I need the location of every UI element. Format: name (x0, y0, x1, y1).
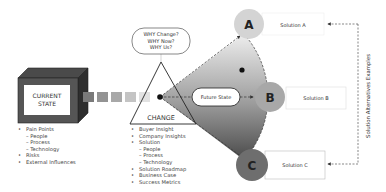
solution-c: Solution C C (236, 149, 325, 181)
square-1 (83, 92, 94, 102)
cube-top (18, 68, 88, 78)
change-subitem: People (131, 146, 186, 153)
square-5 (139, 92, 150, 102)
current-item: Risks (18, 152, 76, 159)
square-4 (125, 92, 136, 102)
solution-b: Solution B B (255, 82, 346, 112)
current-subitem: Process (18, 139, 76, 146)
change-item: Company Insights (131, 133, 186, 140)
solution-a: Solution A A (234, 9, 324, 39)
current-state-list: Pain Points People Process Technology Ri… (18, 126, 76, 166)
solution-b-letter: B (265, 91, 274, 105)
current-state-cube: CURRENT STATE (18, 68, 88, 123)
future-state-label: Future State (201, 94, 232, 100)
change-item: Success Metrics (131, 179, 186, 186)
change-list: Buyer Insight Company Insights Solution … (131, 126, 186, 185)
solution-b-label: Solution B (303, 95, 329, 101)
current-state-label-1: CURRENT (33, 92, 62, 99)
side-label: Solution Alternatives Examples (365, 54, 372, 138)
current-item: Pain Points (18, 126, 76, 133)
current-state-label-2: STATE (38, 100, 56, 107)
current-item: External Influences (18, 159, 76, 166)
change-item: Business Case (131, 172, 186, 179)
change-subitem: Technology (131, 159, 186, 166)
change-subitem: Process (131, 152, 186, 159)
change-item: Solution Roadmap (131, 166, 186, 173)
change-item: Buyer Insight (131, 126, 186, 133)
change-label: CHANGE (147, 114, 174, 122)
current-subitem: Technology (18, 146, 76, 153)
square-2 (97, 92, 108, 102)
solution-c-label: Solution C (282, 162, 308, 168)
solution-a-label: Solution A (280, 22, 306, 28)
solution-c-letter: C (248, 159, 257, 173)
why-now: WHY Now? (148, 38, 175, 44)
square-3 (111, 92, 122, 102)
change-origin-node (157, 94, 163, 100)
change-item: Solution (131, 139, 186, 146)
current-subitem: People (18, 133, 76, 140)
transition-squares (83, 92, 150, 102)
solution-a-letter: A (244, 18, 254, 32)
arc-node (239, 67, 244, 72)
why-us: WHY Us? (150, 44, 173, 50)
